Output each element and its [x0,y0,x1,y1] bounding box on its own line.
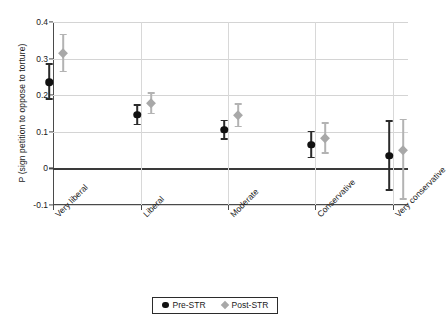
legend-label: Pre-STR [173,300,206,310]
vertical-gridline [315,22,316,205]
y-tick-mark [49,58,53,59]
error-bar-cap-bottom [235,126,242,128]
x-tick-label: Very liberal [53,182,90,219]
gridline [53,59,408,60]
vertical-gridline [141,22,142,205]
error-bar-cap-top [400,119,407,121]
data-point-post-str [146,99,155,108]
error-bar-cap-bottom [308,157,315,159]
error-bar-cap-top [386,120,393,122]
data-point-pre-str [45,79,53,87]
chart-legend: Pre-STRPost-STR [152,297,278,314]
error-bar-cap-top [60,34,67,36]
error-bar-cap-top [235,103,242,105]
error-bar-cap-bottom [221,138,228,140]
data-point-post-str [320,134,329,143]
y-tick-label: 0.3 [36,54,48,64]
gridline [53,95,408,96]
x-tick-label: Very conservative [393,165,448,220]
plot-area: 0.40.30.20.10-0.1 Very liberalLiberalMod… [53,22,408,205]
error-bar-cap-bottom [322,152,329,154]
error-bar-cap-top [308,131,315,133]
y-tick-label: -0.1 [33,200,48,210]
error-bar-cap-bottom [148,113,155,115]
y-tick-mark [49,168,53,169]
error-bar [402,119,404,200]
legend-entry: Pre-STR [162,300,206,310]
error-bar-cap-top [46,63,53,65]
error-bar-cap-bottom [386,189,393,191]
data-point-pre-str [133,111,141,119]
zero-reference-line [53,168,408,170]
y-tick-label: 0 [43,163,48,173]
legend-entry: Post-STR [222,300,269,310]
error-bar-cap-bottom [60,71,67,73]
legend-label: Post-STR [232,300,269,310]
gridline [53,205,408,206]
y-tick-label: 0.4 [36,17,48,27]
data-point-post-str [398,145,407,154]
data-point-post-str [233,111,242,120]
error-bar-cap-top [221,120,228,122]
data-point-pre-str [307,141,315,149]
legend-circle-icon [162,302,169,309]
error-bar-cap-bottom [134,124,141,126]
gridline [53,132,408,133]
data-point-pre-str [220,126,228,134]
x-tick-label: Liberal [141,194,166,219]
data-point-post-str [58,48,67,57]
y-tick-label: 0.1 [36,127,48,137]
error-bar-cap-top [148,92,155,94]
gridline [53,22,408,23]
vertical-gridline [393,22,394,205]
error-bar-cap-bottom [400,198,407,200]
legend-diamond-icon [220,301,228,309]
y-tick-mark [49,21,53,22]
y-axis-line [53,22,54,205]
data-point-pre-str [385,152,393,160]
error-bar-cap-bottom [46,98,53,100]
y-axis-label: P (sign petition to oppose to torture) [17,13,27,213]
y-tick-mark [49,131,53,132]
error-bar-cap-top [322,122,329,124]
vertical-gridline [228,22,229,205]
x-tick-label: Conservative [315,177,357,219]
error-bar-cap-top [134,104,141,106]
